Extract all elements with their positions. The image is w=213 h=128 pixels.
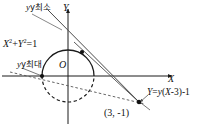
line-equation-label: Y=y(X-3)-1 <box>147 88 190 98</box>
ymax-leader <box>22 68 42 76</box>
x-axis-label: X <box>168 74 174 84</box>
point-comma: , <box>112 107 115 118</box>
y-axis-label: Y <box>63 3 69 13</box>
circle-eq-tail: =1 <box>27 38 38 49</box>
y-max-text: y최대 <box>21 59 42 69</box>
external-point <box>137 100 141 104</box>
y-min-text: y최소 <box>30 2 51 12</box>
geometry-figure: yy최소 Y X2+Y2=1 yy최대 O X Y=y(X-3)-1 (3, -… <box>0 0 213 128</box>
origin-label: O <box>59 60 66 70</box>
secant-line-right <box>74 42 141 104</box>
tangent-point-upper <box>80 50 84 54</box>
external-point-label: (3, -1) <box>104 108 129 118</box>
point-y-value: -1 <box>117 107 125 118</box>
point-label-leader <box>141 103 150 110</box>
tangent-line-min <box>48 10 141 104</box>
circle-equation-label: X2+Y2=1 <box>3 39 37 49</box>
point-paren-close: ) <box>126 107 129 118</box>
ymin-leader <box>32 14 62 30</box>
line-eq-minus-three: -3 <box>171 87 179 97</box>
tangent-point-left <box>40 74 44 78</box>
y-max-label: yy최대 <box>17 60 42 69</box>
y-min-label: yy최소 <box>26 3 51 12</box>
line-eq-minus-one: -1 <box>182 87 190 97</box>
